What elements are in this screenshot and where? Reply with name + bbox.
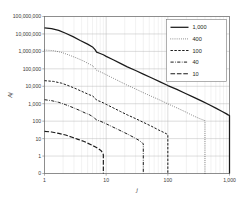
xtick-label: 10 xyxy=(103,177,109,183)
xtick-label: 1,000 xyxy=(223,177,236,183)
ytick-label: 1 xyxy=(38,153,41,159)
line-chart: 100,000,00010,000,0001,000,000100,00010,… xyxy=(0,0,237,205)
xtick-label: 1 xyxy=(43,177,46,183)
ytick-label: 0 xyxy=(38,170,41,176)
series-line-40 xyxy=(45,100,144,174)
legend-label: 100 xyxy=(193,48,202,54)
legend-label: 10 xyxy=(193,71,199,77)
x-axis-title: j xyxy=(135,186,138,193)
ytick-label: 10,000 xyxy=(26,83,42,89)
legend-label: 400 xyxy=(193,36,202,42)
ytick-label: 100,000 xyxy=(23,66,42,72)
legend-label: 40 xyxy=(193,59,199,65)
ytick-label: 10 xyxy=(35,136,41,142)
xtick-label: 100 xyxy=(164,177,173,183)
ytick-label: 1,000 xyxy=(28,101,41,107)
ytick-label: 100,000,000 xyxy=(13,13,41,19)
y-axis-title: Aj xyxy=(6,92,13,99)
legend-label: 1,000 xyxy=(193,24,207,30)
ytick-label: 10,000,000 xyxy=(16,31,42,37)
ytick-label: 1,000,000 xyxy=(18,48,41,54)
chart-legend: 1,0004001004010 xyxy=(167,20,227,82)
chart-container: 100,000,00010,000,0001,000,000100,00010,… xyxy=(0,0,237,205)
ytick-label: 100 xyxy=(33,118,42,124)
